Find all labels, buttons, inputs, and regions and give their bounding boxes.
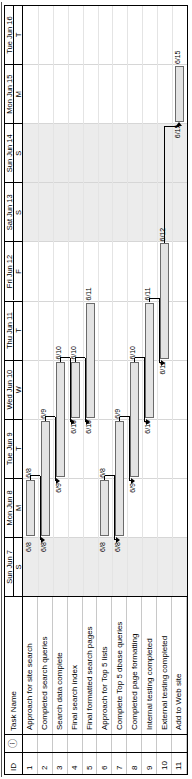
timescale-day-initial: S (14, 124, 23, 182)
dependency-link-h2 (114, 476, 115, 540)
table-row-task-name[interactable]: Final search index (68, 597, 83, 734)
gantt-bar[interactable] (56, 362, 65, 477)
gantt-row-line (112, 6, 113, 596)
timescale-day-column: Mon Jun 15M (5, 64, 23, 123)
dependency-link-h (119, 417, 120, 421)
table-row-indicator[interactable] (53, 735, 68, 752)
gantt-bar[interactable] (100, 480, 109, 536)
table-row-indicator[interactable] (127, 735, 142, 752)
dependency-arrow-icon (146, 419, 150, 425)
rotated-gantt-wrapper: ID 1234567891011 ⓘ Task Name Approach fo… (0, 0, 192, 779)
table-row-indicator[interactable] (112, 735, 127, 752)
dependency-arrow-icon (41, 537, 45, 543)
gantt-bar[interactable] (41, 421, 50, 536)
gantt-bar-start-label: 6/8 (25, 542, 32, 552)
table-row-task-name[interactable]: Final formatted search pages (83, 597, 98, 734)
dependency-link-v (75, 357, 85, 358)
dependency-link-h (75, 358, 76, 362)
timescale-day-column: Sat Jun 13S (5, 182, 23, 241)
table-row-task-name[interactable]: Completed page formatting (127, 597, 142, 734)
dependency-link-h2 (70, 358, 71, 422)
table-row-id[interactable]: 1 (23, 753, 38, 774)
gantt-chart: ID 1234567891011 ⓘ Task Name Approach fo… (0, 0, 192, 779)
timescale-day-column: Thu Jun 11T (5, 301, 23, 360)
gantt-canvas: 6/86/86/86/96/96/106/106/106/106/116/86/… (23, 6, 187, 596)
dependency-arrow-icon (56, 478, 60, 484)
table-row-indicator[interactable] (38, 735, 53, 752)
gantt-bar-start-label: 6/8 (99, 542, 106, 552)
gantt-row-line (83, 6, 84, 596)
table-row-id[interactable]: 5 (83, 753, 98, 774)
gantt-day-column (23, 6, 187, 64)
timescale-date-label: Sat Jun 13 (5, 183, 14, 241)
table-row-task-name[interactable]: Complete Top 5 dbase queries (112, 597, 127, 734)
table-row-indicator[interactable] (142, 735, 157, 752)
dependency-arrow-icon (86, 419, 90, 425)
table-row-id[interactable]: 8 (127, 753, 142, 774)
dependency-link-v (45, 416, 55, 417)
timescale-day-initial: T (14, 302, 23, 360)
gantt-bar[interactable] (160, 243, 169, 358)
gantt-bar-finish-label: 6/15 (174, 50, 181, 64)
table-row-id[interactable]: 9 (142, 753, 157, 774)
table-row-task-name[interactable]: Completed search queries (38, 597, 53, 734)
table-row-task-name[interactable]: Internal testing completed (142, 597, 157, 734)
table-row-indicator[interactable] (98, 735, 113, 752)
timescale-day-column: Tue Jun 9T (5, 419, 23, 478)
table-row-task-name[interactable]: External testing completed (157, 597, 172, 734)
gantt-bar[interactable] (26, 480, 35, 536)
column-header-task-name: Task Name (5, 597, 23, 734)
table-row-task-name[interactable]: Approach for Top 5 lists (98, 597, 113, 734)
gantt-row-line (53, 6, 54, 596)
gantt-bar[interactable] (115, 421, 124, 536)
timescale-day-column: Fri Jun 12F (5, 241, 23, 300)
timescale-date-label: Tue Jun 9 (5, 420, 14, 478)
table-row-id[interactable]: 3 (53, 753, 68, 774)
dependency-link-v (150, 298, 160, 299)
dependency-link-h (45, 417, 46, 421)
timescale-day-column: Wed Jun 10W (5, 360, 23, 419)
table-row-id[interactable]: 7 (112, 753, 127, 774)
timescale-date-label: Sun Jun 7 (5, 538, 14, 596)
dependency-link-h (30, 476, 31, 480)
dependency-link-h2 (55, 417, 56, 481)
dependency-link-h (60, 358, 61, 362)
dependency-link-v (105, 475, 115, 476)
timescale-day-initial: S (14, 538, 23, 596)
table-row-indicator[interactable] (157, 735, 172, 752)
gantt-bar[interactable] (86, 303, 95, 418)
gantt-bar-start-label: 6/9 (129, 483, 136, 493)
table-row-indicator[interactable] (23, 735, 38, 752)
table-row-task-name[interactable]: Search data complete (53, 597, 68, 734)
table-row-indicator[interactable] (68, 735, 83, 752)
dependency-arrow-icon (116, 537, 120, 543)
dependency-link-h2 (40, 476, 41, 540)
top-rule (1, 2, 2, 777)
info-icon: ⓘ (9, 739, 18, 748)
table-row-id[interactable]: 10 (157, 753, 172, 774)
gantt-bar[interactable] (130, 362, 139, 477)
table-row-id[interactable]: 4 (68, 753, 83, 774)
gantt-bar[interactable] (71, 362, 80, 418)
chart-frame: ID 1234567891011 ⓘ Task Name Approach fo… (4, 5, 188, 775)
table-row-indicator[interactable] (83, 735, 98, 752)
dependency-link-h2 (144, 358, 145, 422)
table-row-id[interactable]: 2 (38, 753, 53, 774)
dependency-link-v (120, 416, 130, 417)
timescale-date-label: Mon Jun 8 (5, 479, 14, 537)
table-row-indicator[interactable] (172, 735, 187, 752)
table-row-id[interactable]: 11 (172, 753, 187, 774)
gantt-bar-start-label: 6/8 (40, 542, 47, 552)
timescale-header: Sun Jun 7SMon Jun 8MTue Jun 9TWed Jun 10… (5, 6, 23, 596)
table-row-id[interactable]: 6 (98, 753, 113, 774)
timescale-day-column: Tue Jun 16T (5, 5, 23, 64)
table-row-task-name[interactable]: Approach for site search (23, 597, 38, 734)
timescale-day-initial: W (14, 361, 23, 419)
timescale-day-initial: F (14, 242, 23, 300)
gantt-bar[interactable] (145, 303, 154, 418)
dependency-link-h (134, 358, 135, 362)
table-row-task-name[interactable]: Add to Web site (172, 597, 187, 734)
gantt-bar[interactable] (175, 66, 184, 122)
timescale-date-label: Tue Jun 16 (5, 6, 14, 64)
dependency-arrow-icon (71, 419, 75, 425)
